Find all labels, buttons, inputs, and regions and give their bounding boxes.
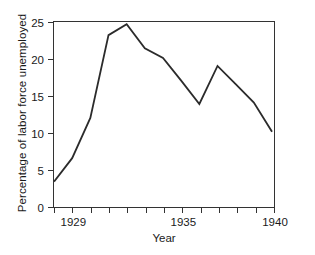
plot-area: 0510152025192919351940 bbox=[53, 21, 275, 208]
y-tick-label-15: 15 bbox=[31, 91, 44, 103]
y-tick-label-0: 0 bbox=[38, 202, 44, 214]
x-tick-label-1940: 1940 bbox=[262, 216, 288, 228]
y-tick-label-5: 5 bbox=[38, 165, 44, 177]
x-tick-1933 bbox=[146, 207, 147, 213]
y-tick-label-25: 25 bbox=[31, 17, 44, 29]
x-tick-1935: 1935 bbox=[182, 207, 183, 213]
x-tick-1937 bbox=[219, 207, 220, 213]
x-tick-1939 bbox=[256, 207, 257, 213]
y-tick-label-20: 20 bbox=[31, 54, 44, 66]
x-tick-label-1935: 1935 bbox=[171, 216, 197, 228]
x-tick-1932 bbox=[127, 207, 128, 213]
unemployment-line-chart: Percentage of labor force unemployed 051… bbox=[0, 0, 315, 255]
x-tick-1940: 1940 bbox=[274, 207, 275, 213]
x-tick-1938 bbox=[237, 207, 238, 213]
y-tick-25: 25 bbox=[48, 22, 54, 23]
y-tick-label-10: 10 bbox=[31, 128, 44, 140]
x-axis-title: Year bbox=[53, 232, 275, 244]
x-tick-1934 bbox=[164, 207, 165, 213]
x-tick-1936 bbox=[201, 207, 202, 213]
x-tick-label-1929: 1929 bbox=[61, 216, 87, 228]
x-tick-1929: 1929 bbox=[72, 207, 73, 213]
y-axis-title: Percentage of labor force unemployed bbox=[16, 8, 28, 218]
y-tick-5: 5 bbox=[48, 170, 54, 171]
x-tick-1931 bbox=[109, 207, 110, 213]
y-tick-15: 15 bbox=[48, 96, 54, 97]
x-tick-1930 bbox=[91, 207, 92, 213]
x-tick-1928 bbox=[54, 207, 55, 213]
series-line-unemployment-rate bbox=[54, 22, 274, 207]
y-tick-20: 20 bbox=[48, 59, 54, 60]
y-tick-10: 10 bbox=[48, 133, 54, 134]
